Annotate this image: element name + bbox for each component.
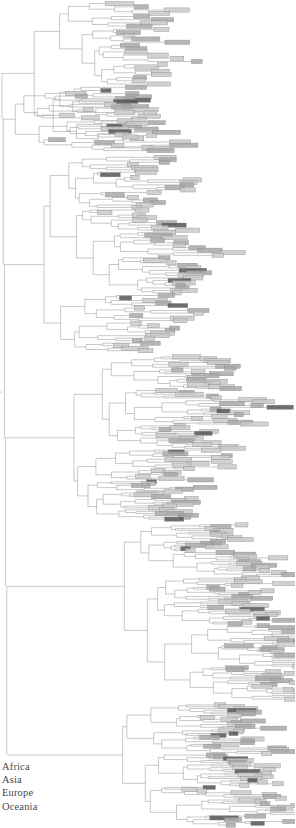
phylogenetic-tree-figure: Africa Asia Europe Oceania xyxy=(0,0,295,828)
legend-item-oceania: Oceania xyxy=(2,800,37,813)
legend-item-africa: Africa xyxy=(2,760,37,773)
legend: Africa Asia Europe Oceania xyxy=(2,760,37,813)
legend-item-asia: Asia xyxy=(2,773,37,786)
cladogram-canvas xyxy=(0,0,295,828)
tree-tip-labels xyxy=(49,2,296,828)
legend-item-europe: Europe xyxy=(2,786,37,799)
